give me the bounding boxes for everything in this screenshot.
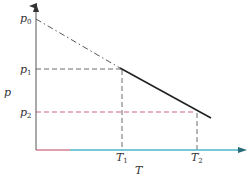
extrapolation-line — [36, 19, 120, 68]
p-t-line — [120, 68, 211, 118]
x-axis-arrow-icon — [238, 147, 247, 153]
x-axis-label: T — [135, 164, 144, 177]
y-axis-label: p — [4, 86, 11, 99]
y-axis-arrow-icon — [33, 3, 39, 12]
tick-t1: T1 — [116, 151, 128, 165]
p-t-diagram: p0 p1 p2 p T1 T2 T — [0, 0, 250, 184]
tick-p1: p1 — [20, 63, 32, 77]
tick-p2: p2 — [20, 106, 32, 120]
tick-p0: p0 — [20, 12, 32, 26]
tick-t2: T2 — [191, 151, 203, 165]
